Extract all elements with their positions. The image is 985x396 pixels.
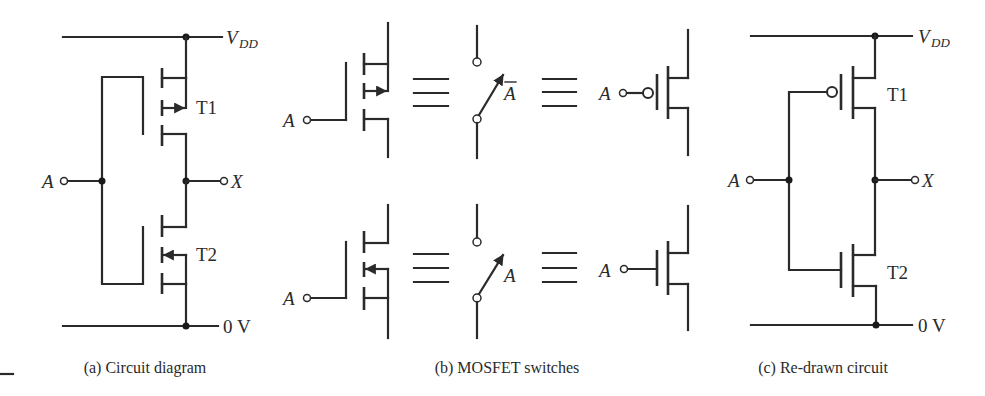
output-label-x: X [921, 170, 935, 191]
equivalence-icon [414, 79, 448, 106]
output-label-x: X [230, 171, 244, 192]
vdd-label: V [226, 27, 240, 48]
caption-a: (a) Circuit diagram [84, 359, 207, 377]
output-terminal-x [912, 177, 919, 184]
input-label-a: A [40, 171, 54, 192]
ground-label: 0 V [223, 316, 251, 337]
vdd-subscript: DD [930, 35, 950, 50]
equivalence-icon [543, 253, 576, 282]
vdd-label: V [918, 26, 932, 47]
cmos-inverter-figure: V DD T1 A X [0, 0, 985, 396]
transistor-t2: T2 [841, 244, 908, 325]
output-terminal-x [221, 178, 228, 185]
pmos-input-label: A [281, 110, 295, 131]
equivalence-icon [414, 254, 448, 282]
ground-label: 0 V [918, 315, 946, 336]
transistor-t1: T1 [162, 37, 217, 181]
switch-icon [473, 26, 503, 158]
equivalence-icon [543, 79, 576, 106]
input-terminal [304, 117, 311, 124]
caption-b: (b) MOSFET switches [435, 359, 580, 377]
switch-control-a: A [502, 265, 516, 286]
input-terminal-a [61, 178, 68, 185]
svg-text:A: A [597, 83, 611, 104]
panel-b-mosfet-switches: A A [281, 23, 688, 377]
junction-dot [873, 322, 880, 329]
nmos-symbol: A [597, 206, 688, 330]
nmos-input-label: A [281, 288, 295, 309]
inversion-bubble-icon [643, 88, 653, 98]
gate-wire [789, 92, 841, 270]
input-terminal [304, 295, 311, 302]
nmos-row: A A [281, 205, 688, 338]
switch-icon [473, 205, 503, 338]
junction-dot [99, 178, 106, 185]
junction-dot [183, 323, 190, 330]
panel-a-circuit-diagram: V DD T1 A X [40, 27, 258, 377]
transistor-t2: T2 [162, 181, 217, 326]
panel-c-redrawn-circuit: V DD T1 A X [726, 26, 950, 377]
input-label-a: A [726, 170, 740, 191]
input-terminal-a [747, 177, 754, 184]
vdd-subscript: DD [238, 36, 258, 51]
t2-label: T2 [196, 244, 217, 265]
t1-label: T1 [196, 97, 217, 118]
inversion-bubble-icon [827, 87, 837, 97]
caption-c: (c) Re-drawn circuit [758, 359, 888, 377]
t2-label: T2 [887, 262, 908, 283]
gate-loop-wire [102, 77, 143, 284]
switch-control-a-bar: A [502, 83, 516, 104]
pmos-symbol: A [597, 30, 688, 155]
transistor-t1: T1 [827, 36, 908, 255]
pmos-row: A A [281, 23, 688, 158]
svg-text:A: A [597, 260, 611, 281]
t1-label: T1 [887, 84, 908, 105]
junction-dot [786, 177, 793, 184]
